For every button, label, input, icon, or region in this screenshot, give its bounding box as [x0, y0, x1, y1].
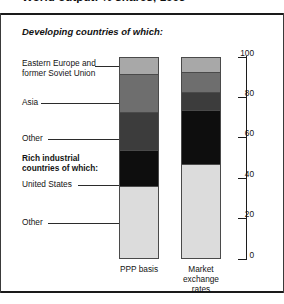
category-label-market: Market exchange rates — [161, 265, 241, 294]
segment-ppp-united-states — [120, 150, 158, 186]
callout-other-rich: Other — [22, 218, 43, 228]
callout-eastern-europe-line2: former Soviet Union — [22, 69, 96, 79]
segment-ppp-asia — [120, 74, 158, 112]
callout-united-states: United States — [22, 180, 72, 190]
y-tick-label-60: 60 — [230, 128, 254, 138]
y-tick-label-100: 100 — [230, 48, 254, 58]
group-heading-developing: Developing countries of which: — [22, 26, 163, 37]
group-heading-rich: Rich industrial countries of which: — [22, 154, 98, 173]
segment-market-united-states — [182, 110, 220, 164]
leader-line-other-rich — [48, 223, 119, 224]
y-tick-label-40: 40 — [230, 169, 254, 179]
callout-eastern-europe: Eastern Europe and former Soviet Union — [22, 59, 96, 78]
segment-market-eastern-europe — [182, 58, 220, 72]
callout-asia: Asia — [22, 98, 38, 108]
segment-market-asia — [182, 72, 220, 92]
page-title: World output: % shares, 1993 — [22, 0, 272, 3]
leader-line-other-developing — [48, 139, 119, 140]
segment-ppp-other-rich — [120, 186, 158, 258]
leader-line-eastern-europe — [95, 66, 119, 67]
y-tick-label-20: 20 — [230, 209, 254, 219]
frame-right-border — [283, 13, 284, 293]
y-tick-label-0: 0 — [230, 250, 254, 260]
bar-ppp-basis — [119, 57, 159, 259]
segment-ppp-eastern-europe — [120, 58, 158, 74]
chart-figure: World output: % shares, 1993 Developing … — [0, 0, 284, 304]
bar-market-exchange-rates — [181, 57, 221, 259]
frame-left-border — [0, 13, 1, 293]
segment-market-other-rich — [182, 164, 220, 258]
top-rule — [0, 13, 284, 15]
group-heading-rich-line2: countries of which: — [22, 164, 98, 174]
bottom-rule — [0, 291, 284, 293]
leader-line-united-states — [78, 185, 119, 186]
callout-other-developing: Other — [22, 134, 43, 144]
category-label-market-line3: rates — [161, 285, 241, 295]
leader-line-asia — [41, 103, 119, 104]
segment-market-other-developing — [182, 92, 220, 110]
segment-ppp-other-developing — [120, 112, 158, 150]
y-tick-label-80: 80 — [230, 88, 254, 98]
y-axis-line — [246, 56, 247, 260]
